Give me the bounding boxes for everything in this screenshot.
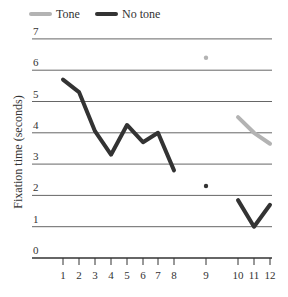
y-tick-label: 6 <box>33 56 39 68</box>
y-tick-label: 4 <box>33 119 39 131</box>
y-tick-label: 5 <box>33 88 39 100</box>
y-axis-labels: 01234567 <box>33 25 39 256</box>
x-tick-label: 1 <box>60 269 66 281</box>
y-tick-label: 7 <box>33 25 39 37</box>
y-tick-label: 0 <box>33 244 39 256</box>
y-tick-label: 2 <box>33 181 39 193</box>
x-tick-label: 10 <box>233 269 245 281</box>
series-dot-no-tone <box>204 184 208 188</box>
x-tick-label: 7 <box>155 269 161 281</box>
chart: Tone No tone Fixation time (seconds) 012… <box>0 0 288 297</box>
series-tone <box>204 55 270 143</box>
y-tick-label: 1 <box>33 213 39 225</box>
series-line-no-tone <box>63 80 174 171</box>
x-tick-label: 6 <box>140 269 146 281</box>
legend-item-no-tone: No tone <box>97 7 160 21</box>
x-tick-label: 11 <box>249 269 260 281</box>
x-tick-label: 8 <box>171 269 177 281</box>
series-dot-tone <box>204 55 208 59</box>
x-tick-label: 9 <box>203 269 209 281</box>
x-tick-label: 3 <box>92 269 98 281</box>
y-axis-title: Fixation time (seconds) <box>11 95 25 208</box>
x-tick-label: 4 <box>108 269 114 281</box>
x-axis-labels: 123456789101112 <box>60 269 275 281</box>
legend-label-tone: Tone <box>56 7 80 21</box>
x-tick-label: 12 <box>265 269 276 281</box>
x-axis-ticks <box>63 258 270 265</box>
y-tick-label: 3 <box>33 150 39 162</box>
x-tick-label: 2 <box>76 269 82 281</box>
series-line-tone <box>238 117 270 144</box>
x-tick-label: 5 <box>124 269 130 281</box>
legend: Tone No tone <box>31 7 160 21</box>
legend-item-tone: Tone <box>31 7 80 21</box>
series-line-no-tone <box>238 200 270 227</box>
legend-label-no-tone: No tone <box>122 7 160 21</box>
data-series <box>63 55 270 226</box>
gridlines <box>32 39 272 227</box>
